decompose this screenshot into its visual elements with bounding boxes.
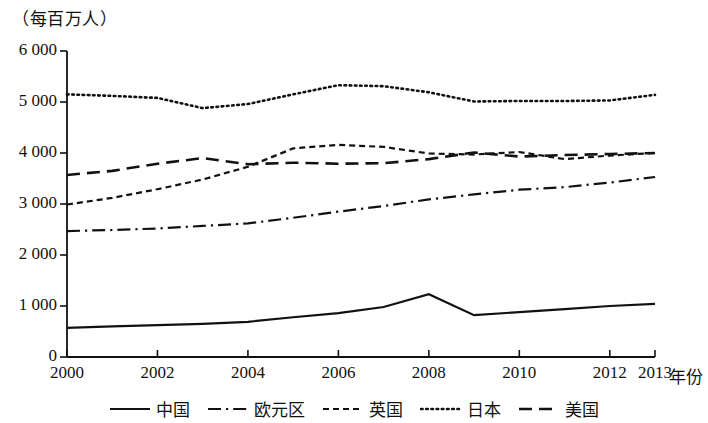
- legend-swatch-dashed-short: [322, 403, 364, 415]
- legend-label: 美国: [565, 396, 599, 421]
- x-tick-label: 2008: [406, 363, 452, 383]
- series-line: [67, 294, 655, 328]
- line-chart: （每百万人） 01 0002 0003 0004 0005 0006 000 2…: [0, 0, 708, 423]
- x-tick-label: 2010: [496, 363, 542, 383]
- x-tick-label: 2000: [44, 363, 90, 383]
- x-axis-title: 年份: [669, 363, 703, 388]
- y-tick-label: 5 000: [0, 91, 57, 111]
- series-line: [67, 152, 655, 174]
- plot-area: [0, 0, 708, 423]
- legend-item[interactable]: 欧元区: [207, 396, 305, 421]
- chart-legend: 中国欧元区英国日本美国: [0, 396, 708, 421]
- legend-swatch-dashdot: [207, 403, 249, 415]
- y-tick-label: 6 000: [0, 40, 57, 60]
- legend-swatch-dotted: [420, 403, 462, 415]
- y-tick-label: 3 000: [0, 193, 57, 213]
- x-tick-label: 2002: [134, 363, 180, 383]
- y-tick-label: 2 000: [0, 244, 57, 264]
- legend-item[interactable]: 英国: [322, 396, 403, 421]
- legend-label: 英国: [369, 396, 403, 421]
- legend-item[interactable]: 美国: [518, 396, 599, 421]
- legend-swatch-dashed-long: [518, 403, 560, 415]
- legend-label: 日本: [467, 396, 501, 421]
- legend-label: 欧元区: [254, 396, 305, 421]
- legend-swatch-solid: [109, 403, 151, 415]
- x-tick-label: 2004: [225, 363, 271, 383]
- legend-label: 中国: [156, 396, 190, 421]
- series-lines: [67, 85, 655, 328]
- x-tick-label: 2012: [587, 363, 633, 383]
- y-tick-label: 4 000: [0, 142, 57, 162]
- y-tick-label: 1 000: [0, 295, 57, 315]
- legend-item[interactable]: 日本: [420, 396, 501, 421]
- series-line: [67, 85, 655, 108]
- series-line: [67, 177, 655, 231]
- legend-item[interactable]: 中国: [109, 396, 190, 421]
- x-tick-label: 2006: [315, 363, 361, 383]
